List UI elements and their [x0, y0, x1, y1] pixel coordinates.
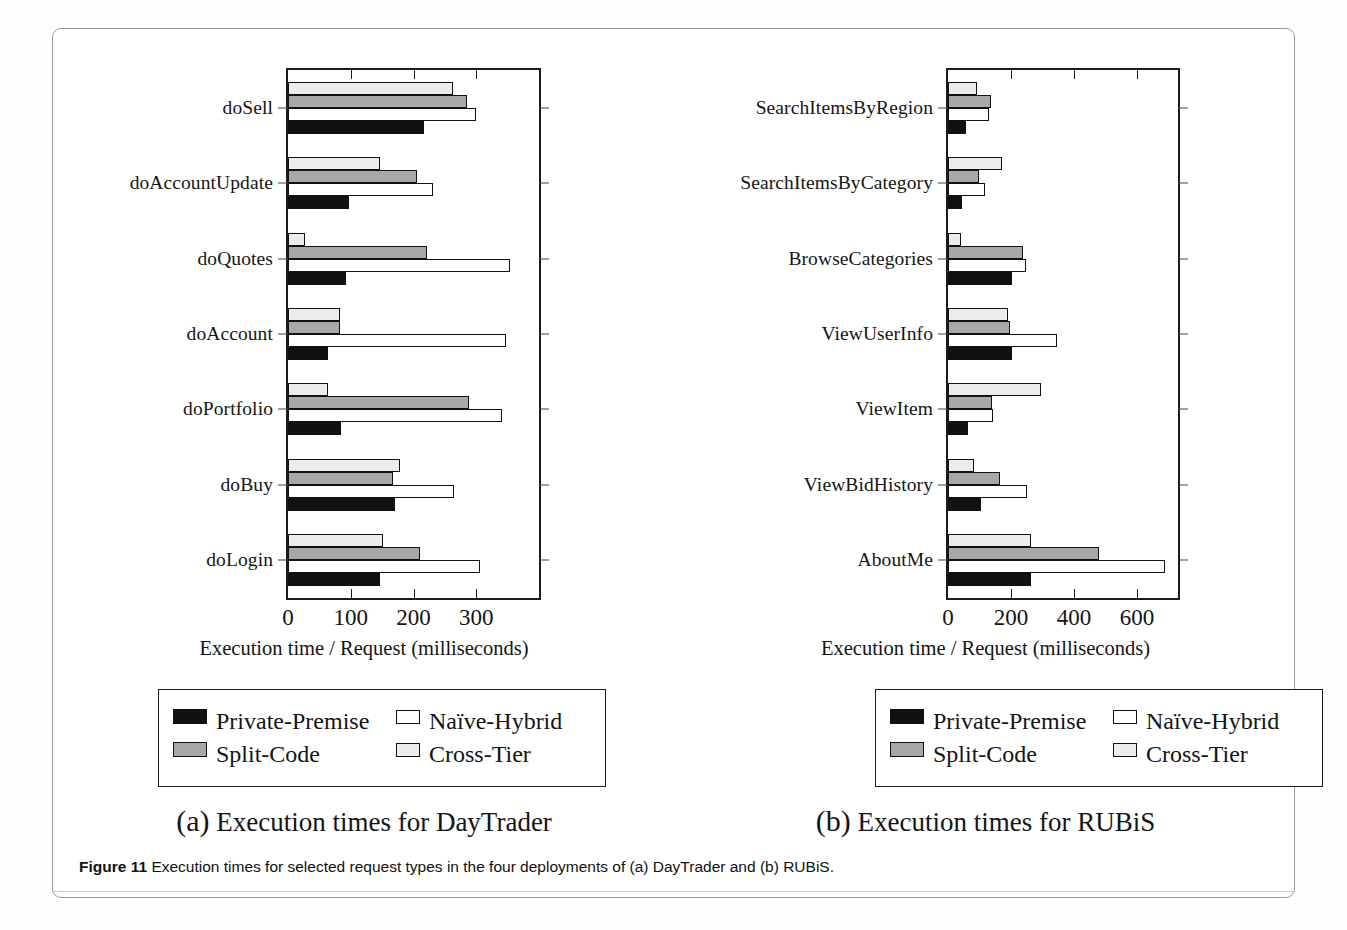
legend-swatch-split-code-icon	[173, 742, 207, 757]
legend-item-naive-hybrid: Naïve-Hybrid	[1099, 708, 1322, 735]
legend-item-cross-tier: Cross-Tier	[382, 741, 605, 768]
category-tick-right	[539, 560, 549, 561]
bar-naive-hybrid	[948, 259, 1026, 272]
legend-label-naive-hybrid: Naïve-Hybrid	[429, 708, 562, 735]
bar-naive-hybrid	[288, 108, 476, 121]
bar-cross-tier	[948, 459, 974, 472]
bar-naive-hybrid	[948, 485, 1027, 498]
bar-naive-hybrid	[288, 409, 502, 422]
bar-cross-tier	[948, 82, 977, 95]
x-axis-tick-top	[1074, 70, 1075, 79]
category-tick-left	[278, 183, 288, 184]
bar-split-code	[288, 95, 467, 108]
bar-private-premise	[288, 498, 395, 511]
rubis-x-axis-title: Execution time / Request (milliseconds)	[675, 637, 1296, 660]
category-group: doAccount	[288, 296, 539, 371]
legend-swatch-private-premise-icon	[890, 709, 924, 724]
daytrader-subcaption-paren: (a)	[176, 804, 209, 837]
rubis-subcaption-text: Execution times for RUBiS	[858, 807, 1156, 837]
x-axis-tick-label: 0	[282, 605, 294, 631]
x-axis-tick	[476, 589, 477, 598]
legend-label-cross-tier: Cross-Tier	[1146, 741, 1248, 768]
daytrader-x-axis-title: Execution time / Request (milliseconds)	[53, 637, 675, 660]
category-tick-left	[278, 409, 288, 410]
bar-split-code	[948, 472, 1000, 485]
bar-private-premise	[288, 573, 380, 586]
legend-item-naive-hybrid: Naïve-Hybrid	[382, 708, 605, 735]
figure-caption: Figure 11 Execution times for selected r…	[79, 857, 1268, 876]
bar-cross-tier	[288, 383, 328, 396]
category-label: doQuotes	[197, 248, 288, 270]
x-axis-tick-label: 400	[1057, 605, 1092, 631]
bar-cross-tier	[948, 383, 1041, 396]
category-tick-right	[539, 484, 549, 485]
category-group: doQuotes	[288, 221, 539, 296]
category-tick-right	[1178, 409, 1188, 410]
figure-number: Figure 11	[79, 858, 147, 875]
bar-naive-hybrid	[948, 409, 993, 422]
panel-rubis: SearchItemsByRegionSearchItemsByCategory…	[675, 29, 1296, 841]
legend-label-naive-hybrid: Naïve-Hybrid	[1146, 708, 1279, 735]
bar-naive-hybrid	[948, 108, 989, 121]
category-tick-left	[278, 258, 288, 259]
category-label: doAccountUpdate	[130, 172, 288, 194]
bar-private-premise	[948, 422, 968, 435]
category-tick-left	[938, 484, 948, 485]
category-tick-right	[1178, 258, 1188, 259]
rubis-legend: Private-Premise Naïve-Hybrid Split-Code …	[875, 689, 1323, 787]
x-axis-tick	[414, 589, 415, 598]
bar-cross-tier	[288, 308, 340, 321]
bar-private-premise	[948, 121, 966, 134]
x-axis-tick	[1137, 589, 1138, 598]
figure-caption-text: Execution times for selected request typ…	[151, 858, 834, 875]
category-tick-right	[1178, 333, 1188, 334]
bar-cross-tier	[288, 534, 383, 547]
x-axis-tick-label: 200	[994, 605, 1029, 631]
category-label: SearchItemsByRegion	[756, 97, 948, 119]
bar-split-code	[288, 170, 417, 183]
bar-split-code	[288, 246, 427, 259]
legend-swatch-cross-tier-icon	[396, 743, 420, 757]
category-label: ViewUserInfo	[821, 323, 948, 345]
bar-split-code	[288, 547, 420, 560]
rubis-plot-area: SearchItemsByRegionSearchItemsByCategory…	[946, 68, 1180, 600]
x-axis-tick	[1011, 589, 1012, 598]
x-axis-tick-label: 100	[334, 605, 369, 631]
category-label: SearchItemsByCategory	[740, 172, 948, 194]
daytrader-subcaption-text: Execution times for DayTrader	[216, 807, 552, 837]
bar-split-code	[288, 472, 393, 485]
bar-private-premise	[288, 196, 349, 209]
x-axis-tick-top	[351, 70, 352, 79]
category-tick-right	[539, 333, 549, 334]
legend-swatch-naive-hybrid-icon	[396, 710, 420, 724]
category-group: doBuy	[288, 447, 539, 522]
category-tick-left	[278, 560, 288, 561]
legend-swatch-split-code-icon	[890, 742, 924, 757]
bar-naive-hybrid	[288, 485, 454, 498]
x-axis-tick	[351, 589, 352, 598]
bar-cross-tier	[288, 233, 305, 246]
category-label: ViewItem	[855, 398, 948, 420]
category-group: AboutMe	[948, 523, 1178, 598]
x-axis-tick-label: 300	[459, 605, 494, 631]
bar-cross-tier	[948, 534, 1031, 547]
x-axis-tick	[1074, 589, 1075, 598]
bar-split-code	[948, 547, 1099, 560]
bar-private-premise	[288, 422, 341, 435]
category-label: ViewBidHistory	[804, 474, 948, 496]
category-group: BrowseCategories	[948, 221, 1178, 296]
bar-naive-hybrid	[948, 334, 1057, 347]
category-group: ViewItem	[948, 372, 1178, 447]
rubis-subcaption: (b) Execution times for RUBiS	[675, 804, 1296, 838]
legend-item-split-code: Split-Code	[876, 741, 1099, 768]
x-axis-tick-top	[1011, 70, 1012, 79]
x-axis-tick-top	[414, 70, 415, 79]
x-axis-tick-top	[476, 70, 477, 79]
bar-private-premise	[948, 196, 962, 209]
x-axis-tick-label: 0	[942, 605, 954, 631]
category-group: doAccountUpdate	[288, 145, 539, 220]
bar-split-code	[948, 170, 979, 183]
category-tick-left	[278, 107, 288, 108]
bar-naive-hybrid	[948, 560, 1165, 573]
category-tick-left	[938, 258, 948, 259]
